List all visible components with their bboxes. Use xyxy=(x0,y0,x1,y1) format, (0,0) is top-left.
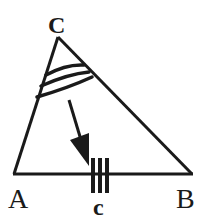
side-ca xyxy=(14,37,58,174)
arrow xyxy=(69,100,89,166)
vertex-label-a: A xyxy=(8,183,29,214)
side-cb xyxy=(58,37,192,174)
vertex-label-c: C xyxy=(48,12,65,38)
triangle-sides xyxy=(13,37,193,174)
triangle-diagram: C A B c xyxy=(0,0,201,217)
arrow-head-icon xyxy=(70,133,89,166)
vertex-label-b: B xyxy=(176,183,195,214)
side-label-c: c xyxy=(93,194,104,217)
